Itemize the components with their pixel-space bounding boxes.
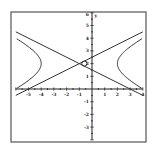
y-top-label: 6 bbox=[86, 12, 89, 17]
x-tick-label: -4 bbox=[39, 92, 44, 97]
x-tick-label: 2 bbox=[116, 92, 119, 97]
hyperbola-branch bbox=[17, 39, 41, 89]
curves bbox=[16, 32, 143, 96]
y-tick-label: 3 bbox=[86, 48, 89, 53]
x-tick-label: -2 bbox=[64, 92, 69, 97]
axes bbox=[16, 13, 143, 140]
y-tick-label: -1 bbox=[84, 99, 89, 104]
y-tick-label: 5 bbox=[86, 23, 89, 28]
x-tick-label: 4 bbox=[141, 92, 144, 97]
tick-labels: -5-4-3-2-1123454321-1-2-36y bbox=[26, 12, 144, 130]
hyperbola-plot: -5-4-3-2-1123454321-1-2-36y bbox=[0, 0, 155, 151]
y-axis-label: y bbox=[94, 13, 98, 18]
x-tick-label: 1 bbox=[103, 92, 106, 97]
y-tick-label: -3 bbox=[84, 125, 89, 130]
x-tick-label: 3 bbox=[129, 92, 132, 97]
y-tick-label: 1 bbox=[86, 74, 89, 79]
y-tick-label: 2 bbox=[86, 61, 89, 66]
y-tick-label: -2 bbox=[84, 112, 89, 117]
x-tick-label: -5 bbox=[26, 92, 31, 97]
y-tick-label: 4 bbox=[86, 36, 89, 41]
x-tick-label: -3 bbox=[51, 92, 56, 97]
hyperbola-branch bbox=[117, 39, 141, 89]
x-tick-label: -1 bbox=[77, 92, 82, 97]
